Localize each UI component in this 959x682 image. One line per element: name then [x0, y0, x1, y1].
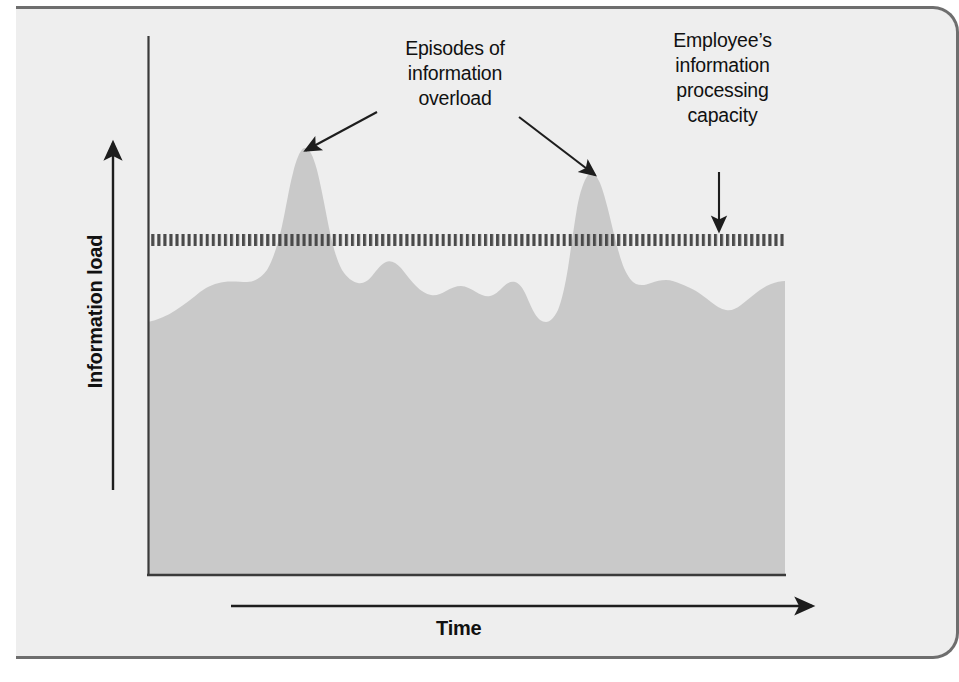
capacity-threshold-band: [151, 234, 785, 246]
area-series-information-load: [148, 148, 785, 575]
annotation-capacity-line-4: capacity: [640, 103, 805, 128]
overload-arrow-left: [306, 112, 378, 151]
annotation-overload-line-1: Episodes of: [370, 36, 540, 61]
x-axis-label: Time: [436, 617, 482, 640]
overload-arrow-right: [519, 117, 595, 175]
annotation-capacity-line-1: Employee’s: [640, 28, 805, 53]
y-axis-label: Information load: [84, 212, 107, 412]
annotation-overload-line-3: overload: [370, 86, 540, 111]
area-fill-path: [148, 148, 785, 575]
annotation-capacity-line-2: information: [640, 53, 805, 78]
annotation-overload-line-2: information: [370, 61, 540, 86]
annotation-episodes-of-information-overload: Episodes of information overload: [370, 36, 540, 111]
annotation-employee-information-processing-capacity: Employee’s information processing capaci…: [640, 28, 805, 128]
annotation-capacity-line-3: processing: [640, 78, 805, 103]
